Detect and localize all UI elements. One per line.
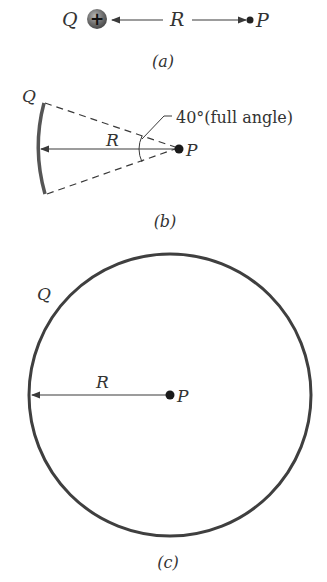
caption-c: (c)	[157, 553, 178, 572]
distance-label-b: R	[105, 130, 119, 150]
caption-b: (b)	[154, 212, 177, 231]
point-p-dot-b	[175, 145, 184, 154]
point-label-a: P	[255, 9, 270, 31]
charge-diagram: Q + R P (a) Q R 40°(full angle) P (b) Q …	[0, 0, 327, 582]
dashed-boundary-bottom	[47, 148, 178, 194]
point-p-dot-a	[247, 17, 254, 24]
plus-sign-icon: +	[90, 9, 104, 29]
caption-a: (a)	[152, 52, 174, 71]
charge-label-b: Q	[22, 86, 36, 106]
charge-label-a: Q	[62, 8, 78, 30]
panel-c: Q R P (c)	[29, 254, 311, 572]
charge-label-c: Q	[37, 284, 51, 304]
distance-label-a: R	[169, 8, 184, 30]
angle-leader-line	[142, 116, 172, 139]
panel-a: Q + R P (a)	[62, 8, 270, 71]
point-label-c: P	[176, 386, 189, 406]
panel-b: Q R 40°(full angle) P (b)	[22, 86, 293, 231]
angle-annotation: 40°(full angle)	[176, 108, 293, 127]
point-label-b: P	[185, 140, 198, 160]
distance-label-c: R	[95, 372, 109, 392]
point-p-dot-c	[166, 391, 175, 400]
